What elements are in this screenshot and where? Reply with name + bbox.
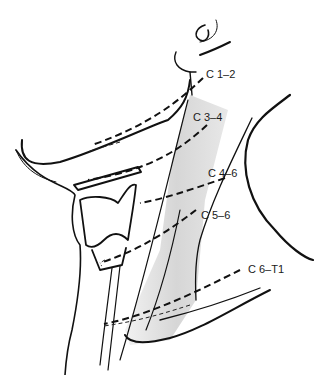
level-label-c5-6: C 5–6 xyxy=(201,210,230,221)
level-label-c3-4: C 3–4 xyxy=(193,112,222,123)
anterior-neck-outline xyxy=(16,150,81,375)
neck-level-diagram: C 1–2 C 3–4 C 4–6 C 5–6 C 6–T1 xyxy=(0,0,323,375)
level-label-c6-t1: C 6–T1 xyxy=(248,264,284,275)
ear-outline xyxy=(196,25,208,41)
neck-illustration xyxy=(0,0,323,375)
level-label-c1-2: C 1–2 xyxy=(206,69,235,80)
trapezius-outline xyxy=(245,95,313,260)
level-label-c4-6: C 4–6 xyxy=(208,168,237,179)
mandible-outline xyxy=(22,80,190,164)
thyroid-cartilage xyxy=(80,185,136,247)
